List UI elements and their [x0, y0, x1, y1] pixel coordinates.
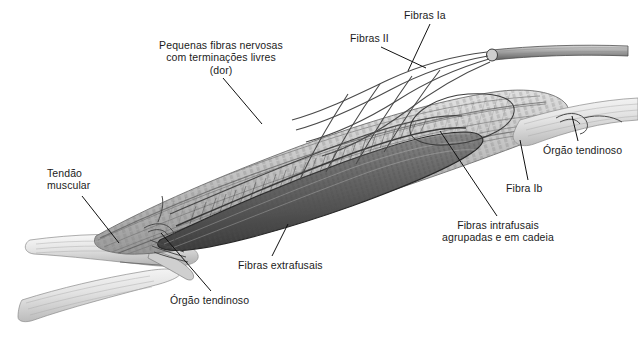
anatomy-figure: Pequenas fibras nervosas com terminações… [0, 0, 638, 347]
label-orgao-tendinoso-esquerda: Órgão tendinoso [170, 294, 258, 306]
label-fibras-extrafusais: Fibras extrafusais [238, 259, 328, 271]
label-pequenas-fibras-nervosas: Pequenas fibras nervosas com terminações… [148, 39, 294, 76]
label-fibras-ii: Fibras II [350, 32, 404, 44]
label-fibras-ia: Fibras Ia [404, 9, 464, 21]
label-orgao-tendinoso-direita: Órgão tendinoso [543, 144, 631, 156]
label-fibras-intrafusais: Fibras intrafusais agrupadas e em cadeia [434, 219, 562, 244]
label-fibra-ib: Fibra Ib [506, 182, 558, 194]
label-tendao-muscular: Tendão muscular [47, 167, 107, 192]
